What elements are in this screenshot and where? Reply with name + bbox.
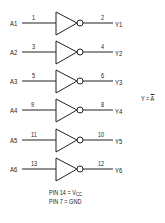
inverter-gate-3	[22, 70, 113, 93]
gnd-pin-note: PIN 7 = GND	[49, 198, 81, 206]
input-pin-13: 13	[31, 160, 37, 167]
output-label-y5: Y5	[115, 138, 122, 145]
equation-lhs: Y =	[141, 95, 151, 102]
input-pin-9: 9	[31, 101, 34, 108]
output-pin-6: 6	[101, 72, 104, 79]
inverter-gate-1	[22, 12, 113, 35]
input-label-a4: A4	[10, 107, 17, 114]
logic-equation: Y = A	[141, 95, 154, 103]
inverter-gate-2	[22, 41, 113, 64]
input-pin-11: 11	[31, 131, 37, 138]
vcc-pin-text: PIN 14 = V	[49, 189, 76, 196]
vcc-pin-note: PIN 14 = VCC	[49, 189, 82, 198]
input-label-a3: A3	[10, 78, 17, 85]
output-label-y4: Y4	[115, 108, 122, 115]
output-pin-2: 2	[101, 14, 104, 21]
input-label-a6: A6	[10, 166, 17, 173]
output-pin-10: 10	[98, 131, 104, 138]
output-pin-8: 8	[101, 101, 104, 108]
output-label-y1: Y1	[115, 21, 122, 28]
output-pin-4: 4	[101, 43, 104, 50]
output-label-y2: Y2	[115, 50, 122, 57]
input-pin-3: 3	[32, 43, 35, 50]
vcc-subscript: CC	[76, 191, 82, 197]
input-pin-5: 5	[32, 72, 35, 79]
equation-rhs-a-bar: A	[151, 95, 155, 102]
output-pin-12: 12	[98, 160, 104, 167]
inverter-gate-4	[22, 99, 113, 122]
input-pin-1: 1	[32, 14, 35, 21]
input-label-a1: A1	[10, 20, 17, 27]
diagram-canvas	[0, 0, 165, 223]
input-label-a5: A5	[10, 137, 17, 144]
input-label-a2: A2	[10, 49, 17, 56]
output-label-y6: Y6	[115, 167, 122, 174]
output-label-y3: Y3	[115, 79, 122, 86]
